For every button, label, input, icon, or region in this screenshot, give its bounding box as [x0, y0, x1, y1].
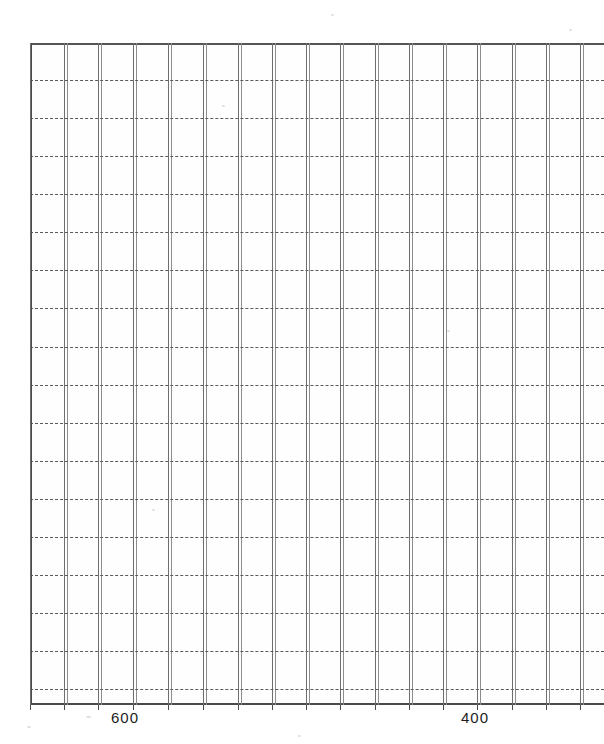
axis-bottom-border	[30, 703, 604, 705]
plot-area	[30, 43, 604, 705]
vertical-gridline	[238, 43, 239, 705]
vertical-gridline	[168, 43, 169, 705]
vertical-gridline	[272, 43, 273, 705]
x-axis-tick	[340, 705, 341, 710]
horizontal-gridline	[30, 194, 604, 195]
scan-artifact	[86, 716, 91, 718]
horizontal-gridline	[30, 423, 604, 424]
horizontal-gridline	[30, 461, 604, 462]
vertical-gridline	[409, 43, 410, 705]
horizontal-gridline	[30, 537, 604, 538]
horizontal-gridline	[30, 575, 604, 576]
x-axis-tick	[168, 705, 169, 710]
x-axis-tick	[443, 705, 444, 710]
vertical-gridline	[203, 43, 204, 705]
axis-top-border	[30, 43, 604, 45]
horizontal-gridline	[30, 385, 604, 386]
vertical-gridline	[512, 43, 513, 705]
vertical-gridline	[306, 43, 307, 705]
horizontal-gridline	[30, 347, 604, 348]
x-axis-tick	[203, 705, 204, 710]
x-axis-tick	[64, 705, 65, 710]
x-axis-tick	[306, 705, 307, 710]
x-axis-tick	[272, 705, 273, 710]
vertical-gridline	[64, 43, 65, 705]
horizontal-gridline	[30, 689, 604, 690]
vertical-gridline	[375, 43, 376, 705]
horizontal-gridline	[30, 613, 604, 614]
scan-artifact	[331, 14, 334, 16]
scan-artifact	[298, 735, 301, 737]
spectrum-chart: 600 400	[0, 0, 604, 744]
vertical-gridline	[30, 43, 31, 705]
x-axis-tick	[580, 705, 581, 710]
vertical-gridline	[443, 43, 444, 705]
horizontal-gridline	[30, 499, 604, 500]
x-tick-label-400: 400	[461, 709, 489, 726]
vertical-gridline	[580, 43, 581, 705]
x-axis-tick	[375, 705, 376, 710]
x-tick-label-600: 600	[111, 709, 139, 726]
x-axis-tick	[98, 705, 99, 710]
x-axis-tick	[409, 705, 410, 710]
x-axis-tick	[512, 705, 513, 710]
scan-artifact	[27, 726, 31, 728]
horizontal-gridline	[30, 232, 604, 233]
horizontal-gridline	[30, 118, 604, 119]
horizontal-gridline	[30, 270, 604, 271]
vertical-gridline	[340, 43, 341, 705]
x-axis-tick	[238, 705, 239, 710]
vertical-gridline	[133, 43, 134, 705]
vertical-gridline	[477, 43, 478, 705]
vertical-gridline	[546, 43, 547, 705]
x-axis-tick	[30, 705, 31, 710]
horizontal-gridline	[30, 156, 604, 157]
scan-artifact	[569, 29, 572, 31]
horizontal-gridline	[30, 80, 604, 81]
x-axis-tick	[546, 705, 547, 710]
horizontal-gridline	[30, 651, 604, 652]
horizontal-gridline	[30, 308, 604, 309]
vertical-gridline	[98, 43, 99, 705]
